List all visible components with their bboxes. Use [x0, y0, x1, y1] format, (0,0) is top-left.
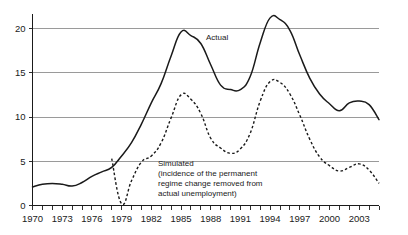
x-tick-label-1985: 1985 — [170, 213, 191, 224]
y-tick-label-0: 0 — [20, 200, 25, 211]
x-tick-label-1982: 1982 — [141, 213, 162, 224]
annotation-line-3: regime change removed from — [158, 179, 263, 188]
y-tick-label-5: 5 — [20, 156, 25, 167]
chart-canvas: 05101520 1970197319761979198219851988199… — [0, 0, 408, 235]
annotation-line-1: Simulated — [158, 159, 194, 168]
x-tick-label-1973: 1973 — [52, 213, 73, 224]
series-label-actual: Actual — [206, 33, 228, 42]
x-tick-label-2000: 2000 — [319, 213, 340, 224]
y-axis-ticks: 05101520 — [15, 23, 33, 211]
x-tick-label-1991: 1991 — [230, 213, 251, 224]
x-axis: 1970197319761979198219851988199119941997… — [22, 206, 379, 224]
annotation-line-4: actual unemployment) — [158, 189, 237, 198]
gridlines — [33, 29, 380, 162]
x-tick-label-1997: 1997 — [289, 213, 310, 224]
y-tick-label-20: 20 — [15, 23, 26, 34]
y-tick-label-15: 15 — [15, 67, 26, 78]
x-tick-label-1976: 1976 — [81, 213, 102, 224]
x-tick-label-1970: 1970 — [22, 213, 43, 224]
x-tick-label-2003: 2003 — [349, 213, 370, 224]
x-axis-ticks: 1970197319761979198219851988199119941997… — [22, 206, 379, 224]
y-tick-label-10: 10 — [15, 111, 26, 122]
x-tick-label-1988: 1988 — [200, 213, 221, 224]
annotation-line-2: (incidence of the permanent — [158, 169, 258, 178]
x-tick-label-1979: 1979 — [111, 213, 132, 224]
y-axis: 05101520 — [15, 14, 33, 211]
unemployment-line-chart: 05101520 1970197319761979198219851988199… — [0, 0, 408, 235]
x-tick-label-1994: 1994 — [260, 213, 281, 224]
series-annotation-simulated: Simulated (incidence of the permanent re… — [158, 159, 263, 198]
